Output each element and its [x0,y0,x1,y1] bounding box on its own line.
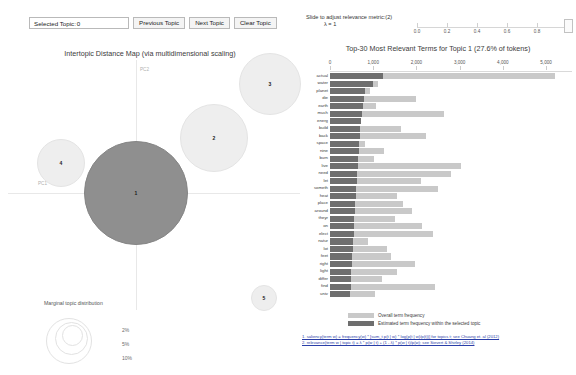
slider-tick-0.6 [507,23,508,27]
bar-term-label: elect [319,231,328,237]
bar-row[interactable]: someth [330,186,572,192]
slider-tick-label-0.6: 0.6 [504,29,510,34]
slider-tick-0.4 [477,23,478,27]
bar-term-label: planet [316,88,328,94]
bar-row[interactable]: live [330,163,572,169]
bar-row[interactable]: place [330,201,572,207]
bar-topic-frequency [330,141,359,147]
bar-topic-frequency [330,111,362,117]
bar-topic-frequency [330,253,352,259]
bar-row[interactable]: natur [330,238,572,244]
bar-topic-frequency [330,178,357,184]
barchart-x-axis [330,71,572,72]
bar-term-label: build [319,125,328,131]
bar-row[interactable]: actual [330,73,572,79]
relevance-slider-track[interactable] [417,27,567,28]
bar-topic-frequency [330,223,354,229]
slider-tick-0.2 [447,23,448,27]
bar-row[interactable]: univ [330,291,572,297]
bar-row[interactable]: much [330,111,572,117]
bar-term-label: find [321,283,328,289]
marginal-circle-2 [62,325,83,346]
previous-topic-button[interactable]: Previous Topic [133,17,185,29]
bar-row[interactable]: water [330,81,572,87]
x-tick-5000 [546,66,547,70]
marginal-legend-title: Marginal topic distribution [44,300,103,306]
bar-term-label: on [323,223,328,229]
legend-row-topic: Estimated term frequency within the sele… [348,320,480,326]
bar-row[interactable]: space [330,141,572,147]
bar-term-label: lot [323,246,328,252]
x-tick-3000 [460,66,461,70]
bar-row[interactable]: earth [330,103,572,109]
bar-row[interactable]: planet [330,88,572,94]
bar-topic-frequency [330,193,356,199]
selected-topic-label: Selected Topic: [34,20,76,27]
bar-row[interactable]: lot [330,246,572,252]
selected-topic-input[interactable]: Selected Topic: 0 [29,17,129,29]
topic-bubble-label-3: 3 [269,81,272,87]
bar-term-label: space [317,140,328,146]
intertopic-map-panel: Selected Topic: 0 Previous Topic Next To… [0,0,300,375]
marginal-tick-10: 10% [122,355,132,361]
topic-bubble-label-2: 2 [213,135,216,141]
bar-row[interactable]: let [330,178,572,184]
bar-row[interactable]: differ [330,276,572,282]
bar-row[interactable]: light [330,269,572,275]
bar-topic-frequency [330,118,361,124]
bar-row[interactable]: right [330,261,572,267]
bar-topic-frequency [330,171,357,177]
bar-term-label: earth [318,103,328,109]
x-tick-2000 [416,66,417,70]
relevance-slider-handle[interactable] [564,19,573,33]
slider-tick-0.0 [417,23,418,27]
topic-bubble-label-4: 4 [60,160,63,166]
ldavis-app: Selected Topic: 0 Previous Topic Next To… [0,0,576,375]
x-tick-label-2000: 2,000 [411,60,423,65]
bar-term-label: around [315,208,328,214]
bar-row[interactable]: elect [330,231,572,237]
legend-row-overall: Overall term frequency [348,312,480,318]
clear-topic-button[interactable]: Clear Topic [234,17,277,29]
legend-swatch-overall [348,313,374,318]
topic-bubble-label-5: 5 [263,295,266,301]
bar-topic-frequency [330,88,365,94]
x-tick-label-0: 0 [329,60,332,65]
bar-row[interactable]: on [330,223,572,229]
bar-topic-frequency [330,276,351,282]
bar-row[interactable]: heat [330,193,572,199]
bar-topic-frequency [330,103,363,109]
bar-topic-frequency [330,148,359,154]
slider-tick-label-0.4: 0.4 [474,29,480,34]
x-tick-4000 [503,66,504,70]
bar-row[interactable]: back [330,133,572,139]
bar-term-label: water [317,80,328,86]
bar-row[interactable]: around [330,208,572,214]
lambda-value-label: λ = 1 [324,21,336,27]
bar-topic-frequency [330,163,358,169]
bar-row[interactable]: need [330,171,572,177]
bar-row[interactable]: find [330,284,572,290]
marginal-topic-distribution-legend: Marginal topic distribution 2% 5% 10% [36,300,166,368]
bar-term-label: someth [314,185,328,191]
bar-topic-frequency [330,133,360,139]
barchart-title: Top-30 Most Relevant Terms for Topic 1 (… [300,44,576,53]
term-barchart-panel: Slide to adjust relevance metric:(2) λ =… [300,0,576,375]
bar-row[interactable]: energ [330,118,572,124]
bar-row[interactable]: theyr [330,216,572,222]
bar-term-label: die [322,95,328,101]
footnote-relevance[interactable]: 2. relevance(term w | topic t) = λ * p(w… [302,340,574,346]
relevance-slider-row: Slide to adjust relevance metric:(2) λ =… [302,14,576,42]
x-tick-label-1000: 1,000 [367,60,379,65]
intertopic-scatter[interactable]: PC2 PC1 12345 [8,60,300,310]
bar-row[interactable]: feet [330,253,572,259]
bar-topic-frequency [330,126,360,132]
bar-row[interactable]: build [330,126,572,132]
bar-row[interactable]: die [330,96,572,102]
bar-row[interactable]: nine [330,148,572,154]
bar-row[interactable]: burn [330,156,572,162]
slider-tick-label-0.8: 0.8 [534,29,540,34]
topic-bubble-label-1: 1 [135,190,138,196]
next-topic-button[interactable]: Next Topic [189,17,230,29]
bar-topic-frequency [330,96,364,102]
